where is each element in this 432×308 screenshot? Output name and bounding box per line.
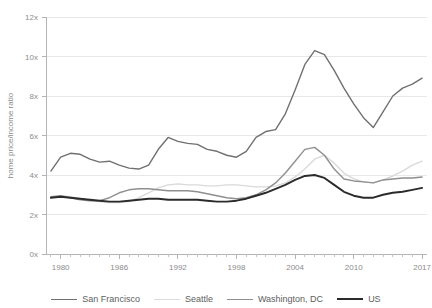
legend-item-washington-dc[interactable]: Washington, DC	[227, 294, 323, 304]
y-tick-label-6: 6x	[30, 132, 38, 141]
x-tick-label-1992: 1992	[169, 263, 187, 272]
x-tick-label-1986: 1986	[110, 263, 128, 272]
legend-item-seattle[interactable]: Seattle	[154, 294, 213, 304]
chart-container: 0x2x4x6x8x10x12x 19801986199219982004201…	[0, 0, 432, 308]
y-axis-title: home price/income ratio	[6, 92, 15, 178]
legend-line-swatch	[51, 299, 77, 300]
data-series	[51, 51, 422, 203]
y-tick-label-4: 4x	[30, 171, 38, 180]
line-chart-plot: 0x2x4x6x8x10x12x 19801986199219982004201…	[0, 0, 432, 308]
legend-item-us[interactable]: US	[337, 294, 381, 304]
x-tick-label-1998: 1998	[228, 263, 246, 272]
series-line-seattle	[51, 155, 422, 202]
legend-label: US	[368, 294, 381, 304]
series-line-san-francisco	[51, 51, 422, 171]
x-tick-label-2017: 2017	[413, 263, 431, 272]
y-axis-title-text: home price/income ratio	[6, 92, 15, 178]
legend-label: Seattle	[185, 294, 213, 304]
legend-line-swatch	[337, 298, 363, 300]
x-tick-label-2004: 2004	[286, 263, 304, 272]
y-tick-label-12: 12x	[25, 13, 38, 22]
y-tick-label-2: 2x	[30, 211, 38, 220]
series-line-washington-dc	[51, 147, 422, 200]
y-tick-label-8: 8x	[30, 92, 38, 101]
legend-label: Washington, DC	[258, 294, 323, 304]
x-tick-label-2010: 2010	[345, 263, 363, 272]
y-tick-label-10: 10x	[25, 53, 38, 62]
x-tick-label-1980: 1980	[52, 263, 70, 272]
legend-line-swatch	[227, 299, 253, 300]
y-tick-label-0: 0x	[30, 250, 38, 259]
chart-legend: San FranciscoSeattleWashington, DCUS	[0, 294, 432, 304]
x-axis-tick-labels: 1980198619921998200420102017	[52, 263, 432, 272]
series-line-us	[51, 175, 422, 202]
legend-label: San Francisco	[82, 294, 140, 304]
legend-item-san-francisco[interactable]: San Francisco	[51, 294, 140, 304]
legend-line-swatch	[154, 299, 180, 300]
y-axis-tick-labels: 0x2x4x6x8x10x12x	[25, 13, 38, 259]
axis-ticks	[42, 17, 422, 259]
